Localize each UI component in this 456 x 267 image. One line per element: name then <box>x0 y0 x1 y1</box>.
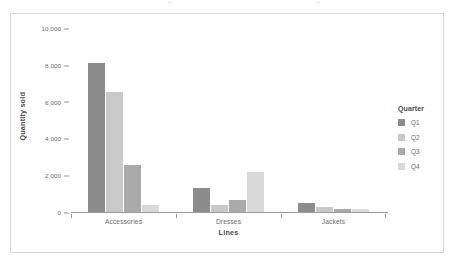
x-axis-tick <box>176 214 177 218</box>
legend-swatch-icon <box>398 163 405 170</box>
x-label-jackets: Jackets <box>281 218 386 225</box>
y-tick-label: 0 <box>57 209 69 216</box>
x-label-accessories: Accessories <box>71 218 176 225</box>
bar-dresses-q3[interactable] <box>229 200 246 213</box>
legend-item-q1[interactable]: Q1 <box>398 119 446 126</box>
capture-artifact <box>168 1 172 4</box>
bar-accessories-q2[interactable] <box>106 92 123 212</box>
legend-item-q4[interactable]: Q4 <box>398 163 446 170</box>
bar-jackets-q2[interactable] <box>316 207 333 212</box>
bar-jackets-q1[interactable] <box>298 203 315 212</box>
chart-frame: Quantity sold 02,0004,0006,0008,00010,00… <box>10 13 444 253</box>
bar-dresses-q2[interactable] <box>211 205 228 212</box>
y-tick-label: 2,000 <box>45 172 69 179</box>
x-label-dresses: Dresses <box>176 218 281 225</box>
capture-artifact <box>316 1 320 4</box>
bar-group <box>281 28 386 212</box>
bar-dresses-q4[interactable] <box>247 172 264 212</box>
bar-accessories-q4[interactable] <box>142 205 159 212</box>
x-axis-tick <box>281 214 282 218</box>
legend: Quarter Q1Q2Q3Q4 <box>398 105 446 177</box>
bar-group <box>176 28 281 212</box>
legend-label: Q2 <box>411 134 420 141</box>
bar-jackets-q4[interactable] <box>352 209 369 212</box>
legend-label: Q1 <box>411 119 420 126</box>
legend-item-q2[interactable]: Q2 <box>398 134 446 141</box>
legend-item-q3[interactable]: Q3 <box>398 148 446 155</box>
y-tick-label: 4,000 <box>45 135 69 142</box>
bar-jackets-q3[interactable] <box>334 209 351 212</box>
legend-swatch-icon <box>398 148 405 155</box>
bar-accessories-q3[interactable] <box>124 165 141 212</box>
x-axis-tick <box>385 214 386 218</box>
y-tick-label: 8,000 <box>45 61 69 68</box>
bar-accessories-q1[interactable] <box>88 63 105 212</box>
x-axis-labels: AccessoriesDressesJackets <box>71 214 386 228</box>
legend-swatch-icon <box>398 119 405 126</box>
y-tick-label: 6,000 <box>45 98 69 105</box>
x-axis-title: Lines <box>71 228 386 237</box>
legend-label: Q4 <box>411 163 420 170</box>
legend-label: Q3 <box>411 148 420 155</box>
bar-group <box>71 28 176 212</box>
x-axis-line <box>71 212 388 213</box>
legend-swatch-icon <box>398 134 405 141</box>
legend-items: Q1Q2Q3Q4 <box>398 119 446 170</box>
x-axis-tick <box>71 214 72 218</box>
y-tick-label: 10,000 <box>41 25 69 32</box>
bar-dresses-q1[interactable] <box>193 188 210 212</box>
legend-title: Quarter <box>398 105 446 112</box>
plot-area <box>71 28 386 212</box>
y-axis-ticks: 02,0004,0006,0008,00010,000 <box>11 28 69 212</box>
